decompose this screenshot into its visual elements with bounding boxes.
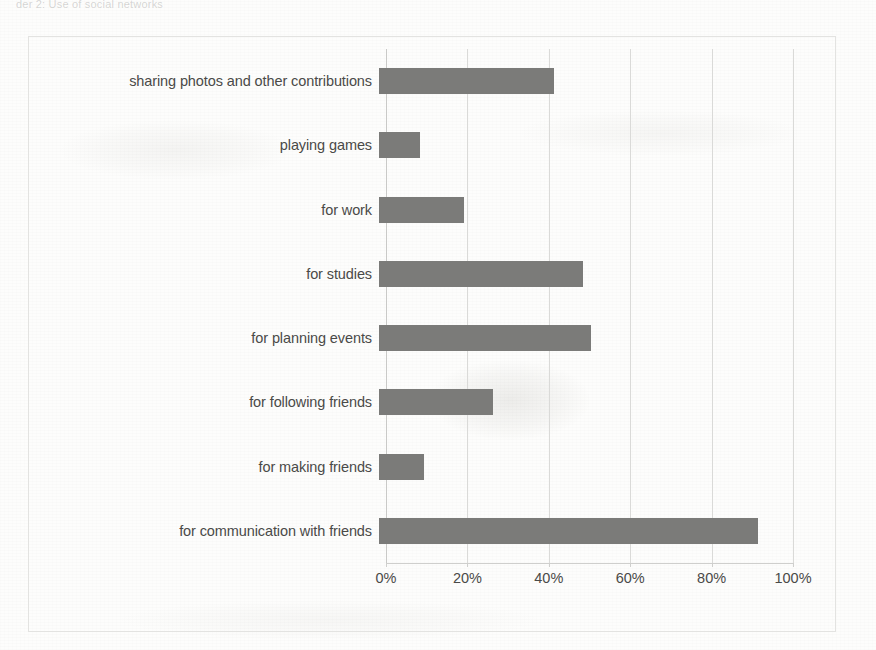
bar [379,197,464,223]
category-label: for planning events [29,330,379,346]
bar [379,389,493,415]
x-tick-label: 100% [774,570,811,586]
x-tick-mark-100% [793,563,794,567]
page-header-faint-text: der 2: Use of social networks [16,0,356,12]
bar [379,68,554,94]
x-tick-mark-20% [467,563,468,567]
bar-row: playing games [29,113,837,177]
bar [379,454,424,480]
x-tick-mark-40% [549,563,550,567]
category-label: for communication with friends [29,523,379,539]
x-tick-label: 80% [697,570,726,586]
chart-canvas: sharing photos and other contributionspl… [29,37,835,631]
bar-track [379,499,837,563]
x-tick-label: 40% [534,570,563,586]
x-tick-mark-60% [630,563,631,567]
bar-track [379,370,837,434]
x-tick-label: 0% [376,570,397,586]
chart-frame: sharing photos and other contributionspl… [28,36,836,632]
bar-row: for communication with friends [29,499,837,563]
bar-row: for work [29,178,837,242]
category-label: playing games [29,137,379,153]
x-tick-label: 60% [616,570,645,586]
bar-track [379,435,837,499]
category-label: for following friends [29,394,379,410]
bar-row: for following friends [29,370,837,434]
bar-row: for studies [29,242,837,306]
x-tick-mark-0% [386,563,387,567]
bar-track [379,242,837,306]
bar-track [379,178,837,242]
category-label: sharing photos and other contributions [29,73,379,89]
bar-rows: sharing photos and other contributionspl… [29,49,837,563]
bar-row: sharing photos and other contributions [29,49,837,113]
category-label: for work [29,202,379,218]
bar [379,261,583,287]
bar [379,325,591,351]
x-tick-label: 20% [453,570,482,586]
bar-track [379,113,837,177]
bar-row: for planning events [29,306,837,370]
bar [379,518,758,544]
bar [379,132,420,158]
category-label: for studies [29,266,379,282]
bar-track [379,306,837,370]
x-tick-mark-80% [712,563,713,567]
x-axis-line [386,563,793,564]
x-axis: 0%20%40%60%80%100% [386,563,793,603]
bar-track [379,49,837,113]
category-label: for making friends [29,459,379,475]
bar-row: for making friends [29,435,837,499]
